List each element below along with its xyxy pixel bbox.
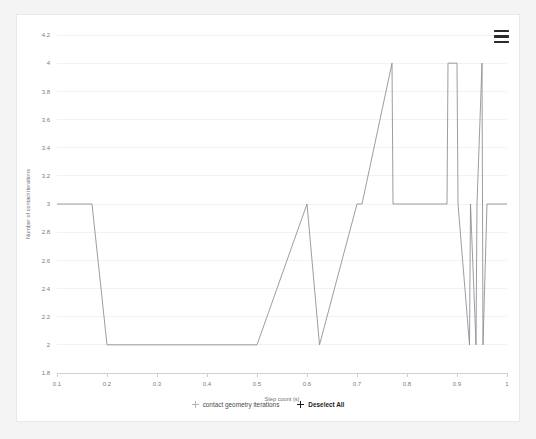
y-tick-label: 1.8 <box>42 370 51 376</box>
chart-card: 1.822.22.42.62.833.23.43.63.844.20.10.20… <box>16 14 520 422</box>
x-tick-label: 0.3 <box>153 381 162 387</box>
legend-label: Deselect All <box>308 401 344 408</box>
legend-item-deselect-all[interactable]: Deselect All <box>297 401 344 408</box>
x-tick-label: 1 <box>505 381 509 387</box>
x-tick-label: 0.1 <box>53 381 62 387</box>
y-tick-label: 3.6 <box>42 117 51 123</box>
x-tick-label: 0.5 <box>253 381 262 387</box>
plus-marker-icon <box>192 401 199 408</box>
y-tick-label: 4 <box>47 60 51 66</box>
y-tick-label: 2.2 <box>42 314 51 320</box>
menu-bar-3 <box>494 41 509 43</box>
chart-legend: contact geometry iterations Deselect All <box>17 401 519 408</box>
x-tick-label: 0.4 <box>203 381 212 387</box>
y-tick-label: 4.2 <box>42 32 51 38</box>
x-tick-label: 0.9 <box>453 381 462 387</box>
y-axis-title: Number of contact iterations <box>25 169 31 239</box>
legend-label: contact geometry iterations <box>203 401 280 408</box>
menu-bar-1 <box>494 30 509 32</box>
y-tick-label: 3.8 <box>42 89 51 95</box>
y-tick-label: 2.6 <box>42 258 51 264</box>
y-tick-label: 3 <box>47 201 51 207</box>
y-tick-label: 2.8 <box>42 229 51 235</box>
hamburger-menu-icon[interactable] <box>494 30 509 43</box>
legend-item-contact-geometry-iterations[interactable]: contact geometry iterations <box>192 401 280 408</box>
menu-bar-2 <box>494 35 509 37</box>
y-tick-label: 2 <box>47 342 51 348</box>
x-tick-label: 0.2 <box>103 381 112 387</box>
y-tick-label: 3.2 <box>42 173 51 179</box>
x-tick-label: 0.8 <box>403 381 412 387</box>
y-tick-label: 3.4 <box>42 145 51 151</box>
x-tick-label: 0.6 <box>303 381 312 387</box>
y-tick-label: 2.4 <box>42 286 51 292</box>
plus-marker-icon <box>297 401 304 408</box>
x-tick-label: 0.7 <box>353 381 362 387</box>
chart-plot: 1.822.22.42.62.833.23.43.63.844.20.10.20… <box>17 15 521 423</box>
